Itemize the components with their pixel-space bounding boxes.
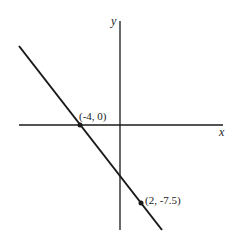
- point-label-2: (2, -7.5): [145, 194, 181, 207]
- x-axis-label: x: [218, 125, 225, 139]
- point-neg4-0: [78, 123, 83, 128]
- point-label-1: (-4, 0): [79, 110, 107, 123]
- y-axis-label: y: [110, 14, 117, 28]
- coordinate-plane: y x (-4, 0) (2, -7.5): [0, 0, 238, 245]
- point-2-neg7-5: [139, 201, 144, 206]
